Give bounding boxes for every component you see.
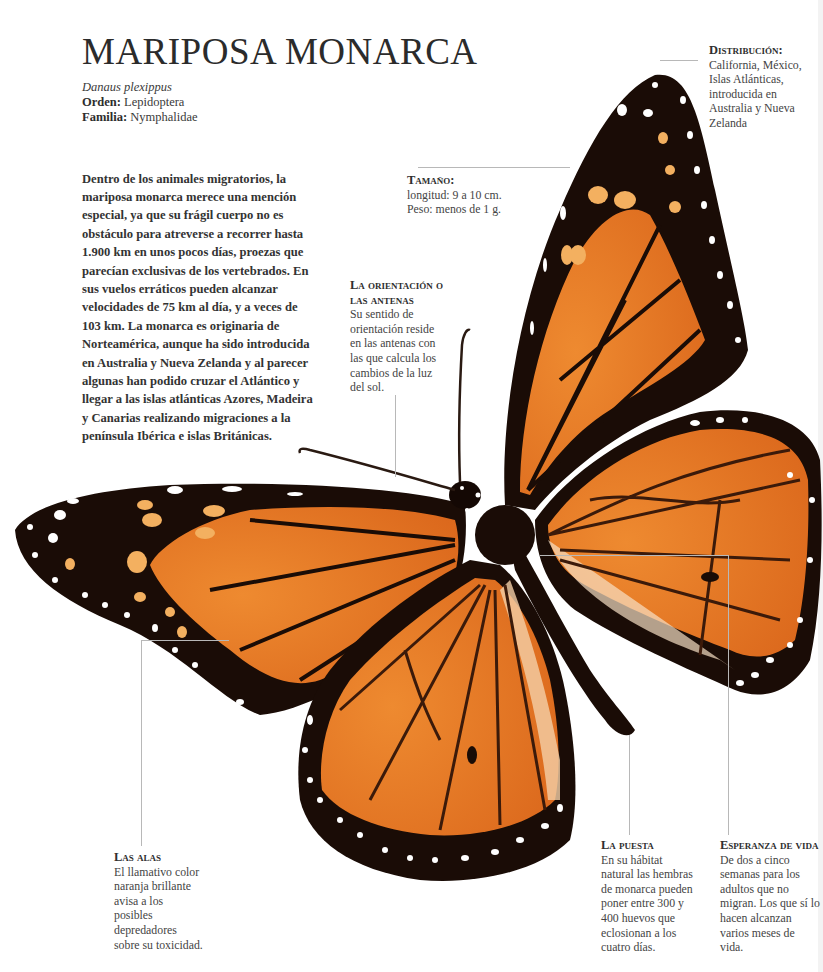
callout-distribucion: Distribución: California, México, Islas … [709, 43, 819, 131]
leader-line-distribucion [660, 60, 698, 61]
callout-text: California, México, Islas Atlánticas, in… [709, 58, 819, 131]
callout-heading: La puesta [601, 838, 697, 853]
callout-heading: Tamaño: [407, 173, 557, 188]
order-value: Lepidoptera [124, 95, 184, 109]
page-title: MARIPOSA MONARCA [82, 30, 478, 73]
leader-line-esperanza-v [728, 555, 729, 835]
leader-line-esperanza-h [540, 555, 728, 556]
leader-line-puesta [629, 735, 630, 835]
callout-heading: Distribución: [709, 43, 819, 58]
callout-heading: Esperanza de vida [720, 838, 820, 853]
scientific-name: Danaus plexippus [82, 80, 198, 95]
family-label: Familia: [82, 110, 127, 124]
leader-line-orientacion [395, 395, 396, 477]
intro-paragraph: Dentro de los animales migratorios, la m… [82, 170, 314, 446]
leader-line-alas-h [141, 640, 229, 641]
callout-heading: La orientación o las antenas [350, 278, 448, 307]
callout-puesta: La puesta En su hábitat natural las hemb… [601, 838, 697, 955]
callout-alas: Las alas El llamativo color naranja bril… [114, 850, 204, 952]
callout-text-line1: longitud: 9 a 10 cm. [407, 188, 557, 203]
callout-tamano: Tamaño: longitud: 9 a 10 cm. Peso: menos… [407, 173, 557, 217]
order-row: Orden: Lepidoptera [82, 95, 198, 110]
callout-esperanza: Esperanza de vida De dos a cinco semanas… [720, 838, 820, 955]
callout-text-line2: Peso: menos de 1 g. [407, 202, 557, 217]
callout-text: Su sentido de orientación reside en las … [350, 307, 448, 395]
order-label: Orden: [82, 95, 121, 109]
taxonomy-block: Danaus plexippus Orden: Lepidoptera Fami… [82, 80, 198, 125]
callout-text: De dos a cinco semanas para los adultos … [720, 853, 820, 955]
callout-orientacion: La orientación o las antenas Su sentido … [350, 278, 448, 395]
callout-heading: Las alas [114, 850, 204, 865]
family-row: Familia: Nymphalidae [82, 110, 198, 125]
callout-text: El llamativo color naranja brillante avi… [114, 865, 204, 953]
family-value: Nymphalidae [130, 110, 197, 124]
leader-line-tamano [418, 167, 570, 168]
monarch-butterfly-illustration [0, 0, 823, 972]
leader-line-alas-v [141, 640, 142, 846]
callout-text: En su hábitat natural las hembras de mon… [601, 853, 697, 955]
